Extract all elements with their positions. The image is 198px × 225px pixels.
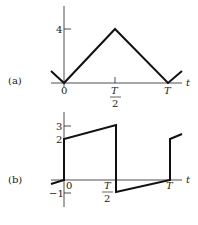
panel-b-label: (b)	[8, 174, 22, 185]
panel-a-x-tick-T-label: T	[164, 85, 172, 96]
figure-labels: (a) 4 0 T 2 T t (b) 3 2 −1 0 T 2 T t	[0, 0, 198, 225]
panel-b-x-axis-label: t	[186, 174, 191, 185]
panel-a-label: (a)	[8, 75, 22, 86]
panel-b-x-tick-half-den: 2	[104, 193, 110, 204]
panel-b-y-tick-minus1-label: −1	[49, 188, 64, 199]
panel-a-x-tick-half-den: 2	[112, 98, 118, 109]
panel-b-y-tick-3-label: 3	[56, 121, 62, 132]
panel-a-x-tick-0-label: 0	[61, 85, 67, 96]
panel-b-y-tick-2-label: 2	[56, 134, 62, 145]
panel-a-x-tick-half-num: T	[111, 85, 119, 96]
panel-b-x-tick-half-num: T	[104, 180, 112, 191]
panel-a-x-axis-label: t	[186, 77, 191, 88]
panel-b-x-tick-T-label: T	[166, 180, 174, 191]
panel-a-y-tick-4-label: 4	[56, 24, 62, 35]
panel-b-x-tick-0-label: 0	[66, 180, 72, 191]
